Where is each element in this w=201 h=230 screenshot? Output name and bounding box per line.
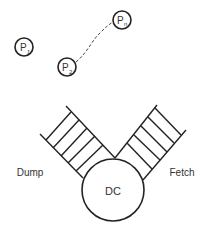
- dc-node: DC: [82, 159, 144, 221]
- dump-rung: [68, 136, 95, 163]
- process-node-p2: P 2: [58, 58, 76, 76]
- dashed-connector: [76, 22, 113, 62]
- diagram-canvas: P 1 P 2 P n DC Dump Fet: [0, 0, 201, 230]
- process-label-p2: P: [62, 62, 69, 73]
- fetch-stack-inner-rail: [115, 105, 157, 158]
- process-node-pn: P n: [113, 11, 131, 29]
- process-label-pn: P: [117, 15, 124, 26]
- dump-label: Dump: [17, 167, 44, 178]
- fetch-label: Fetch: [169, 167, 194, 178]
- fetch-rung: [155, 108, 181, 135]
- process-label-p1: P: [20, 42, 27, 53]
- process-sub-pn: n: [124, 21, 127, 27]
- dc-label: DC: [105, 185, 121, 197]
- dump-rung: [46, 112, 71, 140]
- fetch-rung: [141, 126, 167, 152]
- fetch-rung: [148, 117, 174, 143]
- dump-stack-inner-rail: [66, 106, 115, 158]
- process-node-p1: P 1: [15, 38, 33, 56]
- fetch-rung: [134, 135, 160, 160]
- dump-rung: [61, 128, 87, 156]
- dump-rung: [53, 120, 79, 148]
